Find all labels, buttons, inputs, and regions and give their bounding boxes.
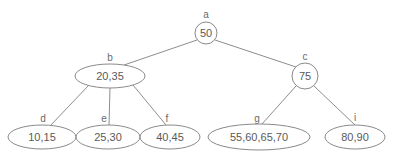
node-value-f: 40,45 <box>156 131 184 143</box>
node-key-label-e: e <box>101 113 107 124</box>
tree-node-e[interactable]: e25,30 <box>76 113 140 149</box>
tree-node-a[interactable]: a50 <box>195 9 217 44</box>
tree-edge-c-g <box>262 86 296 124</box>
tree-node-g[interactable]: g55,60,65,70 <box>208 113 310 150</box>
node-key-label-b: b <box>107 52 113 63</box>
node-key-label-i: i <box>354 112 356 123</box>
diagram-canvas: a50b20,35c75d10,15e25,30f40,45g55,60,65,… <box>0 0 403 157</box>
tree-edge-b-d <box>50 85 89 126</box>
tree-node-f[interactable]: f40,45 <box>140 113 200 149</box>
node-key-label-c: c <box>303 51 308 62</box>
tree-edge-b-f <box>133 85 166 125</box>
node-value-e: 25,30 <box>94 131 122 143</box>
node-value-d: 10,15 <box>28 131 56 143</box>
node-layer: a50b20,35c75d10,15e25,30f40,45g55,60,65,… <box>8 9 385 150</box>
node-value-i: 80,90 <box>341 131 369 143</box>
node-value-g: 55,60,65,70 <box>230 131 288 143</box>
node-value-a: 50 <box>200 27 212 39</box>
node-key-label-g: g <box>254 113 260 124</box>
tree-diagram: a50b20,35c75d10,15e25,30f40,45g55,60,65,… <box>0 0 403 157</box>
tree-node-c[interactable]: c75 <box>292 51 318 89</box>
node-key-label-a: a <box>203 9 209 20</box>
tree-node-i[interactable]: i80,90 <box>325 112 385 149</box>
tree-node-b[interactable]: b20,35 <box>75 52 145 88</box>
node-key-label-d: d <box>40 113 46 124</box>
tree-node-d[interactable]: d10,15 <box>8 113 76 149</box>
tree-edge-a-c <box>215 40 296 67</box>
node-value-c: 75 <box>299 70 311 82</box>
node-value-b: 20,35 <box>96 70 124 82</box>
node-key-label-f: f <box>166 113 169 124</box>
tree-edge-b-e <box>109 88 110 125</box>
tree-edge-c-i <box>314 86 355 125</box>
tree-edge-a-b <box>124 40 197 65</box>
